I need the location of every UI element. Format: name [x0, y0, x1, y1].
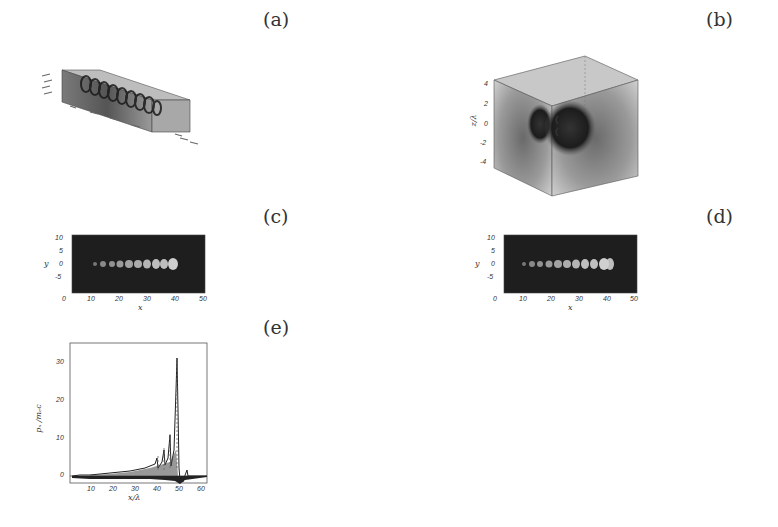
z-tick-4: 4: [484, 80, 488, 87]
panel-label-e: (e): [263, 316, 289, 338]
c-ytick-5: 5: [59, 247, 63, 254]
scatter-e: [30, 330, 220, 500]
panel-b-volume: 4 2 0 -2 -4 z/λ: [470, 50, 670, 210]
c-xtick-10: 10: [87, 295, 95, 302]
panel-a-volume: [40, 70, 220, 170]
e-xtick-10: 10: [87, 485, 95, 492]
e-ytick-0: 0: [60, 471, 64, 478]
d-xtick-0: 0: [493, 295, 497, 302]
d-xtick-40: 40: [603, 295, 611, 302]
panel-label-a: (a): [263, 8, 289, 30]
panel-label-d: (d): [706, 205, 733, 227]
e-ytick-10: 10: [56, 434, 64, 441]
d-ytick-0: 0: [491, 260, 495, 267]
d-xtick-20: 20: [547, 295, 555, 302]
c-xtick-30: 30: [143, 295, 151, 302]
panel-label-b: (b): [706, 8, 733, 30]
c-xtick-0: 0: [62, 295, 66, 302]
e-ylabel: pₓ /mₑc: [34, 404, 43, 432]
panel-d-heatmap: 10 5 0 -5 y 0 10 20 30 40 50 x: [460, 225, 640, 310]
c-xtick-20: 20: [115, 295, 123, 302]
c-xtick-40: 40: [171, 295, 179, 302]
c-xtick-50: 50: [199, 295, 207, 302]
d-xlabel: x: [568, 303, 573, 312]
e-xtick-20: 20: [109, 485, 117, 492]
volume-render-b: [470, 50, 670, 210]
volume-render-a: [40, 70, 220, 170]
d-xtick-30: 30: [575, 295, 583, 302]
d-ytick-10: 10: [487, 234, 495, 241]
panel-c-heatmap: 10 5 0 -5 y 0 10 20 30 40 50 x: [40, 225, 220, 310]
e-xlabel: x/λ: [128, 493, 140, 502]
panel-label-c: (c): [263, 205, 288, 227]
heatmap-c: [40, 225, 220, 310]
z-tick-2: 2: [484, 100, 488, 107]
e-xtick-50: 50: [175, 485, 183, 492]
d-xtick-10: 10: [519, 295, 527, 302]
d-ytick-5: 5: [491, 247, 495, 254]
e-xtick-30: 30: [131, 485, 139, 492]
e-xtick-60: 60: [197, 485, 205, 492]
c-ytick-m5: -5: [55, 273, 61, 280]
c-ytick-0: 0: [59, 260, 63, 267]
panel-e-scatter: 30 20 10 0 pₓ /mₑc 10 20 30 40 50 60 x/λ: [30, 330, 220, 500]
d-xtick-50: 50: [630, 295, 638, 302]
e-ytick-20: 20: [56, 396, 64, 403]
c-ytick-10: 10: [55, 234, 63, 241]
z-tick-m4: -4: [480, 158, 486, 165]
e-xtick-40: 40: [153, 485, 161, 492]
c-ylabel: y: [44, 259, 49, 268]
d-ytick-m5: -5: [487, 273, 493, 280]
e-ytick-30: 30: [56, 358, 64, 365]
z-tick-0: 0: [484, 120, 488, 127]
d-ylabel: y: [475, 259, 480, 268]
z-tick-m2: -2: [480, 139, 486, 146]
c-xlabel: x: [138, 303, 143, 312]
z-axis-label: z/λ: [469, 115, 478, 127]
